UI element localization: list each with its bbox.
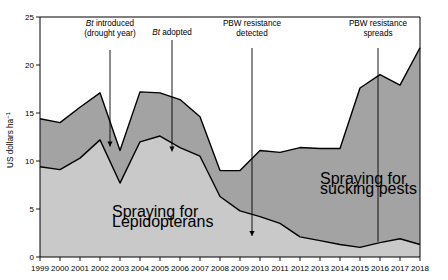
x-tick-label: 2013 <box>311 264 329 273</box>
y-tick-label: 5 <box>30 205 35 214</box>
chart-container: 0510152025 19992000200120022003200420052… <box>0 0 448 280</box>
x-tick-label: 2009 <box>231 264 249 273</box>
x-tick-label: 2001 <box>71 264 89 273</box>
y-tick-label: 15 <box>25 109 34 118</box>
x-tick-label: 2005 <box>151 264 169 273</box>
x-tick-label: 2010 <box>251 264 269 273</box>
y-axis-title: US dollars ha−1 <box>5 111 15 168</box>
x-tick-label: 2000 <box>51 264 69 273</box>
x-tick-label: 2011 <box>271 264 289 273</box>
x-tick-label: 2003 <box>111 264 129 273</box>
lepidopterans-label: Spraying forLepidopterans <box>112 203 213 230</box>
y-tick-label: 25 <box>25 13 34 22</box>
x-tick-label: 2018 <box>411 264 429 273</box>
x-tick-label: 2004 <box>131 264 149 273</box>
x-tick-label: 2002 <box>91 264 109 273</box>
annotation-label-bt-introduced: Bt introduced(drought year) <box>84 19 136 38</box>
x-tick-label: 2014 <box>331 264 349 273</box>
x-tick-label: 2008 <box>211 264 229 273</box>
y-tick-label: 10 <box>25 157 34 166</box>
x-tick-label: 2012 <box>291 264 309 273</box>
x-tick-label: 2017 <box>391 264 409 273</box>
x-tick-label: 2006 <box>171 264 189 273</box>
x-tick-label: 2016 <box>371 264 389 273</box>
x-tick-label: 2015 <box>351 264 369 273</box>
x-tick-label: 2007 <box>191 264 209 273</box>
sucking-pests-label: Spraying forsucking pests <box>320 170 417 197</box>
x-tick-label: 1999 <box>31 264 49 273</box>
y-tick-label: 0 <box>30 253 35 262</box>
insecticide-expenditure-area-chart: 0510152025 19992000200120022003200420052… <box>0 0 448 280</box>
y-tick-label: 20 <box>25 61 34 70</box>
annotation-label-bt-adopted: Bt adopted <box>152 28 192 37</box>
